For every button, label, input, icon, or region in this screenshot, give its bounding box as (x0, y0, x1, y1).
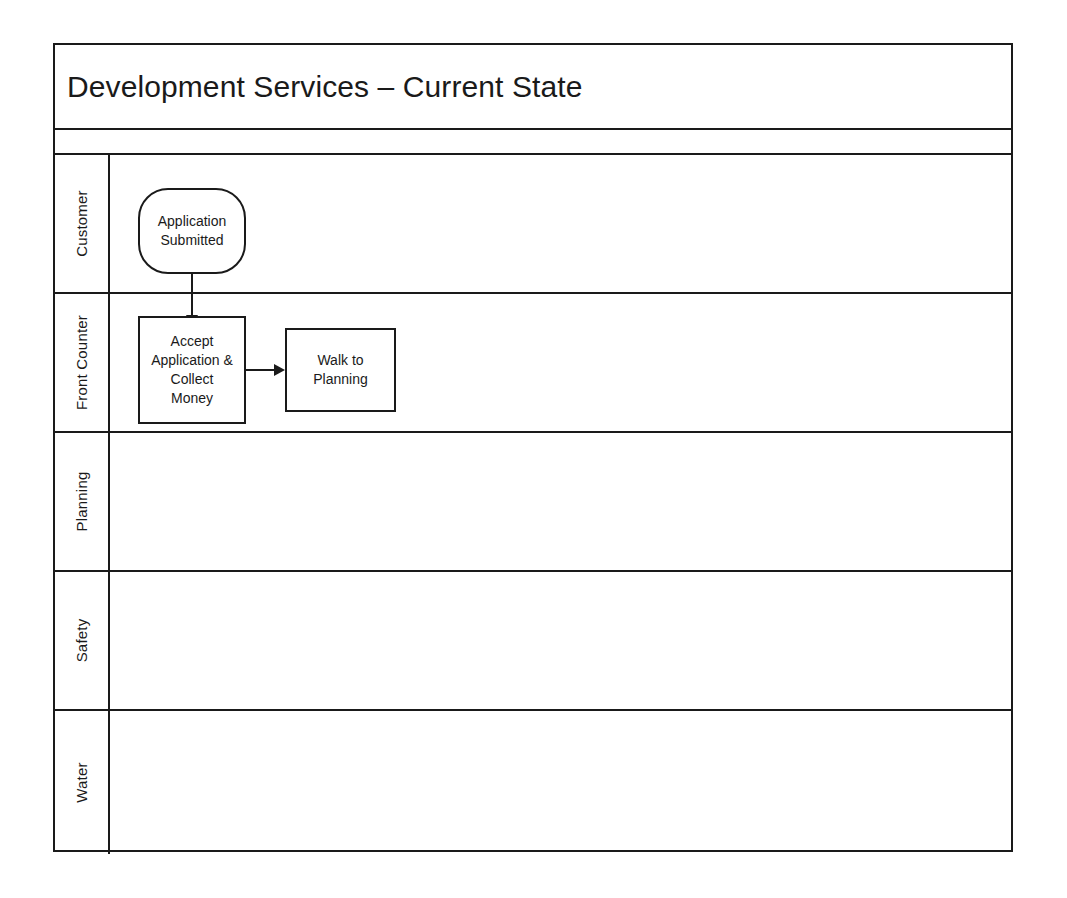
swimlane-customer: Customer Application Submitted (55, 155, 1011, 294)
lane-body-planning (110, 433, 1011, 570)
shape-text-line-1: Application (158, 212, 227, 231)
arrowhead-right-icon (274, 364, 285, 376)
lane-body-safety (110, 572, 1011, 709)
swimlane-front-counter: Front Counter Accept Application & Colle… (55, 294, 1011, 433)
lane-label-customer: Customer (73, 190, 90, 257)
connector-line (246, 369, 276, 371)
shape-label-application-submitted: Application Submitted (158, 212, 227, 250)
swimlane-safety: Safety (55, 572, 1011, 711)
swimlane-pool: Development Services – Current State Cus… (53, 43, 1013, 852)
shape-text-line-1: Accept (151, 332, 233, 351)
lane-label-front-counter: Front Counter (73, 315, 90, 410)
lane-label-cell-safety: Safety (55, 572, 110, 709)
shape-application-submitted[interactable]: Application Submitted (138, 188, 246, 274)
lane-label-cell-water: Water (55, 711, 110, 854)
lane-label-cell-planning: Planning (55, 433, 110, 570)
lane-body-customer: Application Submitted (110, 155, 1011, 292)
diagram-title-row: Development Services – Current State (55, 45, 1011, 130)
lane-label-planning: Planning (73, 472, 90, 532)
shape-text-line-2: Application & (151, 351, 233, 370)
lane-label-safety: Safety (73, 619, 90, 663)
shape-text-line-2: Planning (313, 370, 368, 389)
lane-body-water (110, 711, 1011, 854)
shape-label-walk-to-planning: Walk to Planning (313, 351, 368, 389)
swimlane-planning: Planning (55, 433, 1011, 572)
lane-label-water: Water (73, 762, 90, 802)
header-spacer-row (55, 130, 1011, 155)
shape-label-accept-application-collect-money: Accept Application & Collect Money (151, 332, 233, 408)
lane-body-front-counter: Accept Application & Collect Money Walk … (110, 294, 1011, 431)
lane-label-cell-front-counter: Front Counter (55, 294, 110, 431)
page-title: Development Services – Current State (55, 70, 583, 104)
shape-text-line-4: Money (151, 389, 233, 408)
shape-text-line-1: Walk to (313, 351, 368, 370)
swimlane-water: Water (55, 711, 1011, 854)
shape-walk-to-planning[interactable]: Walk to Planning (285, 328, 396, 412)
lane-label-cell-customer: Customer (55, 155, 110, 292)
connector-line (191, 274, 193, 317)
connector-accept-to-walk (246, 369, 285, 371)
shape-accept-application-collect-money[interactable]: Accept Application & Collect Money (138, 316, 246, 424)
swimlane-list: Customer Application Submitted Front Cou… (55, 155, 1011, 854)
shape-text-line-3: Collect (151, 370, 233, 389)
shape-text-line-2: Submitted (158, 231, 227, 250)
